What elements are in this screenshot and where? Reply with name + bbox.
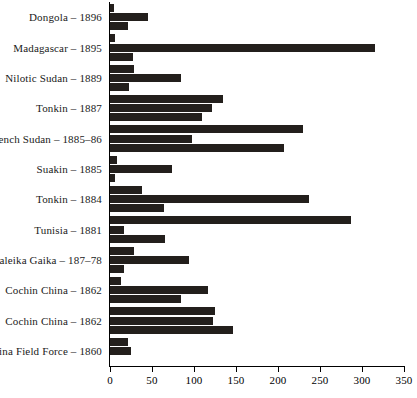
category-label: Tunisia – 1881 xyxy=(34,224,102,236)
x-axis-tick xyxy=(110,367,111,372)
x-axis-tick-label: 150 xyxy=(227,374,244,386)
bar xyxy=(110,34,115,42)
category-label: Tonkin – 1884 xyxy=(36,193,102,205)
bar xyxy=(110,53,133,61)
bar xyxy=(110,65,134,73)
bar xyxy=(110,338,128,346)
bar xyxy=(110,113,202,121)
x-axis-tick xyxy=(404,367,405,372)
bar xyxy=(110,13,148,21)
bar xyxy=(110,256,189,264)
x-axis-tick-label: 300 xyxy=(353,374,370,386)
x-axis-line xyxy=(110,366,405,367)
bar xyxy=(110,83,129,91)
bar xyxy=(110,326,233,334)
x-axis-tick xyxy=(194,367,195,372)
bar xyxy=(110,286,208,294)
bar xyxy=(110,347,131,355)
category-label: Dongola – 1896 xyxy=(29,11,102,23)
bar xyxy=(110,44,375,52)
x-axis-tick xyxy=(236,367,237,372)
category-label: Cochin China – 1862 xyxy=(5,284,102,296)
x-axis-tick-label: 350 xyxy=(395,374,412,386)
bar xyxy=(110,226,124,234)
x-axis-tick-label: 200 xyxy=(269,374,286,386)
bar xyxy=(110,265,124,273)
bar xyxy=(110,247,134,255)
x-axis-tick-label: 100 xyxy=(185,374,202,386)
plot-area xyxy=(110,2,404,366)
bar xyxy=(110,74,181,82)
category-label: French Sudan – 1885–86 xyxy=(0,133,102,145)
bar xyxy=(110,195,309,203)
bar xyxy=(110,156,117,164)
bar xyxy=(110,204,164,212)
bar xyxy=(110,216,351,224)
bar xyxy=(110,307,215,315)
category-label: Nilotic Sudan – 1889 xyxy=(5,72,102,84)
bar xyxy=(110,125,303,133)
category-label: Cochin China – 1862 xyxy=(5,315,102,327)
x-axis-tick-label: 250 xyxy=(311,374,328,386)
bar xyxy=(110,317,213,325)
bar xyxy=(110,165,172,173)
x-axis-tick xyxy=(278,367,279,372)
bar xyxy=(110,277,121,285)
bar xyxy=(110,174,115,182)
x-axis-tick xyxy=(320,367,321,372)
category-label: Tonkin – 1887 xyxy=(36,102,102,114)
bar xyxy=(110,104,212,112)
bar xyxy=(110,95,223,103)
x-axis-tick-label: 50 xyxy=(146,374,157,386)
x-axis-tick xyxy=(362,367,363,372)
bar xyxy=(110,186,142,194)
bar xyxy=(110,295,181,303)
category-label: China Field Force – 1860 xyxy=(0,345,102,357)
bar xyxy=(110,135,192,143)
x-axis-tick-label: 0 xyxy=(107,374,113,386)
category-label: Suakin – 1885 xyxy=(36,163,102,175)
bar xyxy=(110,22,128,30)
bar xyxy=(110,4,114,12)
bar-chart: Dongola – 1896Madagascar – 1895Nilotic S… xyxy=(0,0,417,398)
category-axis-labels: Dongola – 1896Madagascar – 1895Nilotic S… xyxy=(0,0,106,366)
x-axis-tick xyxy=(152,367,153,372)
bar xyxy=(110,144,284,152)
y-axis-line xyxy=(109,2,110,367)
category-label: Madagascar – 1895 xyxy=(13,42,102,54)
category-label: Galeika Gaika – 187–78 xyxy=(0,254,102,266)
bar xyxy=(110,235,165,243)
